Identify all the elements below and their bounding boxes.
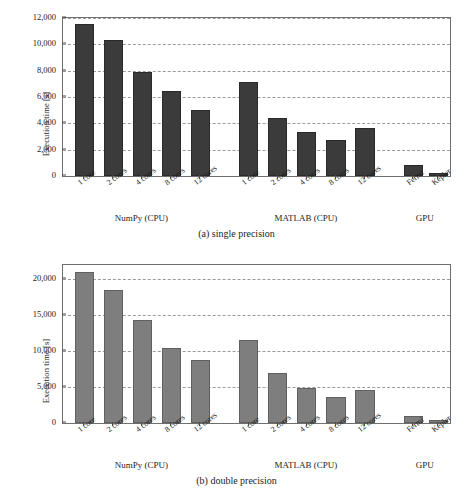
y-axis-tick-mark — [62, 96, 66, 97]
y-axis-tick-mark — [62, 43, 66, 44]
bar — [104, 290, 123, 423]
panel-caption-b: (b) double precision — [0, 475, 473, 486]
y-axis-tick-mark — [62, 422, 66, 423]
group-label: NumPy (CPU) — [115, 460, 168, 470]
x-axis-tick-mark — [170, 422, 171, 426]
x-axis-tick-mark — [277, 175, 278, 179]
x-axis-tick-mark — [437, 422, 438, 426]
y-axis-tick-label: 8,000 — [0, 65, 56, 75]
bar — [162, 348, 181, 423]
x-axis-tick-mark — [141, 422, 142, 426]
chart-panel-single-precision: Execution time [s] (a) single precision … — [0, 0, 473, 247]
plot-area-double-precision — [62, 264, 451, 424]
y-axis-tick-mark — [62, 122, 66, 123]
chart-panel-double-precision: Execution time [s] (b) double precision … — [0, 247, 473, 494]
x-axis-tick-mark — [412, 175, 413, 179]
y-axis-tick-mark — [62, 17, 66, 18]
x-axis-tick-mark — [277, 422, 278, 426]
y-axis-tick-label: 0 — [0, 170, 56, 180]
y-axis-tick-mark — [62, 350, 66, 351]
x-axis-tick-mark — [248, 175, 249, 179]
y-axis-tick-label: 5,000 — [0, 381, 56, 391]
x-axis-tick-mark — [335, 422, 336, 426]
x-axis-tick-mark — [364, 175, 365, 179]
x-axis-tick-mark — [437, 175, 438, 179]
figure-container: Execution time [s] (a) single precision … — [0, 0, 473, 494]
y-axis-tick-label: 10,000 — [0, 345, 56, 355]
y-axis-tick-label: 6,000 — [0, 91, 56, 101]
bar — [133, 320, 152, 423]
group-label: MATLAB (CPU) — [274, 213, 337, 223]
gridline — [63, 279, 450, 280]
x-axis-tick-mark — [306, 175, 307, 179]
x-axis-tick-mark — [248, 422, 249, 426]
bar — [104, 40, 123, 176]
x-axis-tick-mark — [83, 422, 84, 426]
y-axis-tick-mark — [62, 148, 66, 149]
y-axis-tick-label: 20,000 — [0, 273, 56, 283]
bar — [239, 340, 258, 423]
x-axis-tick-mark — [364, 422, 365, 426]
group-label: GPU — [416, 460, 434, 470]
y-axis-tick-mark — [62, 175, 66, 176]
bar — [75, 272, 94, 423]
bar — [133, 72, 152, 176]
group-label: GPU — [416, 213, 434, 223]
x-axis-tick-mark — [306, 422, 307, 426]
y-axis-tick-label: 2,000 — [0, 144, 56, 154]
x-axis-tick-mark — [112, 422, 113, 426]
bar — [75, 24, 94, 176]
x-axis-tick-mark — [170, 175, 171, 179]
plot-inner-double — [63, 265, 450, 423]
bar — [162, 91, 181, 176]
panel-caption-a: (a) single precision — [0, 228, 473, 239]
y-axis-tick-mark — [62, 278, 66, 279]
group-label: NumPy (CPU) — [115, 213, 168, 223]
x-axis-tick-mark — [199, 422, 200, 426]
bar — [239, 82, 258, 176]
y-axis-tick-mark — [62, 69, 66, 70]
plot-area-single-precision — [62, 17, 451, 177]
x-axis-tick-mark — [112, 175, 113, 179]
x-axis-tick-mark — [335, 175, 336, 179]
y-axis-tick-mark — [62, 314, 66, 315]
y-axis-tick-mark — [62, 386, 66, 387]
x-axis-tick-mark — [412, 422, 413, 426]
y-axis-tick-label: 4,000 — [0, 117, 56, 127]
x-axis-tick-mark — [199, 175, 200, 179]
gridline — [63, 18, 450, 19]
group-label: MATLAB (CPU) — [274, 460, 337, 470]
bar — [191, 110, 210, 176]
plot-inner-single — [63, 18, 450, 176]
x-axis-tick-mark — [83, 175, 84, 179]
y-axis-tick-label: 12,000 — [0, 12, 56, 22]
x-axis-tick-mark — [141, 175, 142, 179]
y-axis-tick-label: 15,000 — [0, 309, 56, 319]
y-axis-tick-label: 0 — [0, 417, 56, 427]
y-axis-tick-label: 10,000 — [0, 38, 56, 48]
